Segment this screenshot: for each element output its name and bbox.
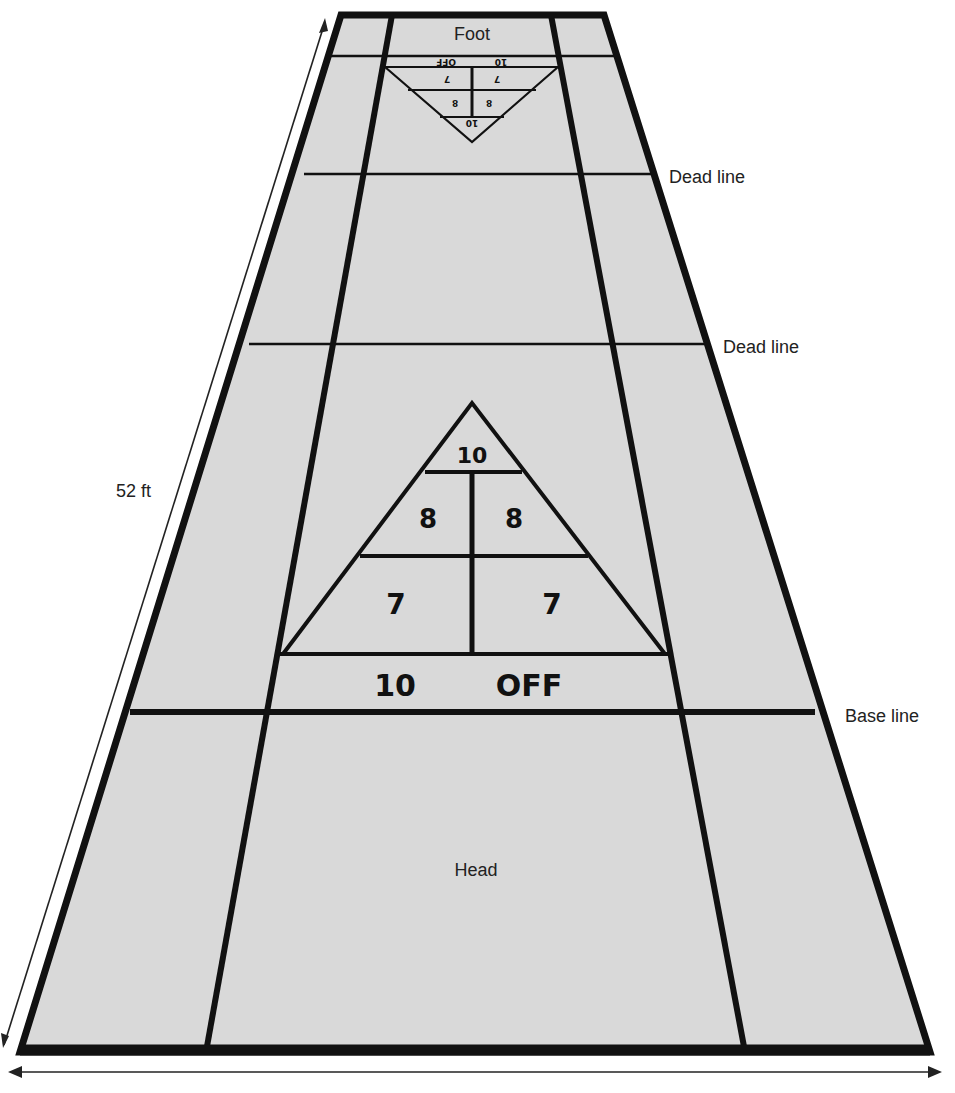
foot-label: Foot [454,24,490,44]
far-8-left: 8 [486,98,492,108]
near-7-left: 7 [386,588,405,621]
far-band-off: OFF [436,57,456,67]
arrowhead-up-icon [319,18,328,33]
near-band-off: OFF [496,668,563,703]
far-7-left: 7 [494,74,500,84]
base-line-label: Base line [845,706,919,726]
near-7-right: 7 [542,588,561,621]
head-label: Head [454,860,497,880]
shuffleboard-court-diagram: 10 OFF 7 7 8 8 10 10 8 8 7 7 10 OFF Foot… [0,0,955,1093]
dead-line-2-label: Dead line [723,337,799,357]
dead-line-1-label: Dead line [669,167,745,187]
near-band-10: 10 [374,668,416,703]
far-10-tip: 10 [466,118,479,128]
near-8-right: 8 [505,504,523,534]
far-band-10: 10 [495,57,508,67]
arrowhead-right-icon [928,1066,942,1078]
width-arrow [8,1066,942,1078]
far-8-right: 8 [452,98,458,108]
length-label: 52 ft [116,481,151,501]
far-7-right: 7 [444,74,450,84]
arrowhead-left-icon [8,1066,22,1078]
court-surface [20,15,930,1052]
near-8-left: 8 [419,504,437,534]
near-10-tip: 10 [457,443,488,468]
